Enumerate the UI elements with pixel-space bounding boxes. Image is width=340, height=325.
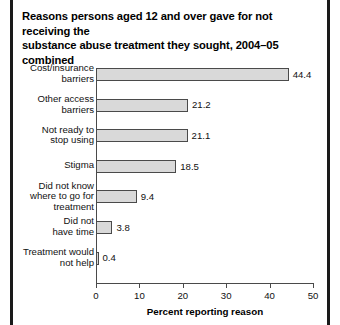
bar-row: Not ready tostop using21.1 (0, 129, 340, 159)
bar-value-label: 18.5 (180, 161, 199, 172)
category-label: Stigma (0, 160, 94, 171)
x-axis-tick-label: 10 (134, 290, 145, 301)
x-axis-tick-label: 30 (221, 290, 232, 301)
x-axis-title: Percent reporting reason (96, 306, 314, 317)
bar-value-label: 0.4 (103, 252, 116, 263)
category-label-line: barriers (0, 105, 94, 116)
category-label: Not ready tostop using (0, 125, 94, 146)
x-axis-tick (96, 283, 97, 288)
category-label: Cost/insurancebarriers (0, 63, 94, 84)
x-axis-tick (313, 283, 314, 288)
bar-value-label: 21.1 (192, 130, 211, 141)
bar (96, 129, 188, 142)
x-axis-tick-label: 50 (308, 290, 319, 301)
bar (96, 221, 112, 234)
bar (96, 68, 289, 81)
category-label-line: Treatment would (0, 247, 94, 258)
x-axis-line (96, 283, 314, 284)
plot-area: Cost/insurancebarriers44.4Other accessba… (0, 0, 340, 325)
category-label: Treatment wouldnot help (0, 247, 94, 268)
category-label: Other accessbarriers (0, 94, 94, 115)
category-label-line: treatment (0, 202, 94, 213)
bar (96, 252, 99, 265)
category-label-line: have time (0, 227, 94, 238)
category-label-line: Other access (0, 94, 94, 105)
category-label-line: Stigma (0, 160, 94, 171)
x-axis-tick (270, 283, 271, 288)
bar (96, 190, 137, 203)
category-label-line: stop using (0, 135, 94, 146)
x-axis-tick-label: 0 (93, 290, 98, 301)
x-axis-tick-label: 20 (177, 290, 188, 301)
bar (96, 160, 176, 173)
bar-value-label: 3.8 (116, 222, 129, 233)
x-axis-tick (226, 283, 227, 288)
x-axis-tick (139, 283, 140, 288)
category-label: Did nothave time (0, 216, 94, 237)
bar-value-label: 21.2 (192, 99, 211, 110)
x-axis-tick (183, 283, 184, 288)
chart-figure: Reasons persons aged 12 and over gave fo… (0, 0, 340, 325)
bar-row: Treatment wouldnot help0.4 (0, 252, 340, 282)
category-label-line: not help (0, 258, 94, 269)
bar-value-label: 44.4 (293, 69, 312, 80)
category-label: Did not knowwhere to go fortreatment (0, 181, 94, 213)
bar (96, 99, 188, 112)
bar-value-label: 9.4 (141, 191, 154, 202)
x-axis-tick-label: 40 (264, 290, 275, 301)
category-label-line: barriers (0, 74, 94, 85)
